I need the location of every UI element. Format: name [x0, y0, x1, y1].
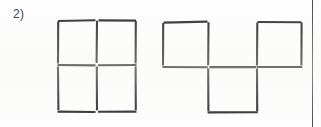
- stick-upper-left-square-top: [164, 22, 208, 23]
- page-edge-rule: [312, 0, 313, 127]
- stick-top-left-horizontal: [58, 20, 96, 21]
- figure-left-svg: [56, 18, 140, 116]
- worksheet-page: 2): [0, 0, 321, 127]
- figure-two-by-two-square-grid: [56, 18, 140, 116]
- figure-right-svg: [161, 18, 305, 116]
- problem-number-label: 2): [13, 7, 24, 21]
- figure-t-shaped-three-squares: [161, 18, 305, 116]
